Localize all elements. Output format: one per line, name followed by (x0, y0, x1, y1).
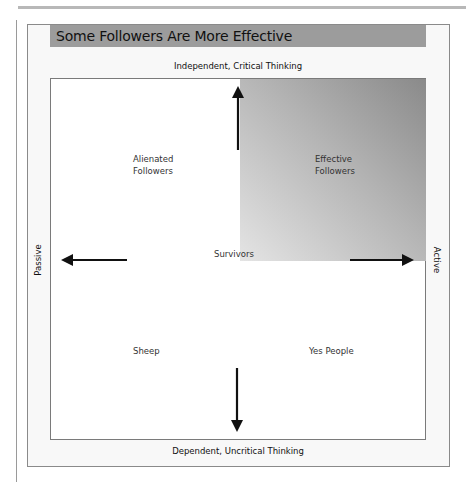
quadrant-bottom-left-line1: Sheep (133, 345, 160, 357)
title-bar: Some Followers Are More Effective (50, 25, 426, 47)
quadrant-top-left-line2: Followers (133, 165, 173, 177)
arrow-up-icon (232, 86, 244, 152)
axis-label-top: Independent, Critical Thinking (50, 61, 426, 71)
arrow-down-icon (231, 368, 243, 432)
quadrant-bottom-right-label: Yes People (309, 345, 354, 357)
quadrant-top-left-label: Alienated Followers (133, 153, 173, 177)
arrow-right-icon (350, 254, 414, 266)
quadrant-bottom-right-line1: Yes People (309, 345, 354, 357)
axis-label-right: Active (432, 247, 442, 273)
diagram-title: Some Followers Are More Effective (56, 28, 292, 44)
quadrant-bottom-left-label: Sheep (133, 345, 160, 357)
quadrant-top-right-label: Effective Followers (315, 153, 355, 177)
quadrant-top-right-line2: Followers (315, 165, 355, 177)
axis-label-left: Passive (33, 244, 43, 275)
arrow-left-icon (61, 254, 127, 266)
top-rule (18, 6, 466, 9)
axis-label-bottom: Dependent, Uncritical Thinking (50, 446, 426, 456)
quadrant-center-label: Survivors (214, 248, 254, 260)
quadrant-center-line1: Survivors (214, 248, 254, 260)
left-margin-rule (16, 20, 17, 482)
quadrant-top-right-line1: Effective (315, 153, 355, 165)
quadrant-top-left-line1: Alienated (133, 153, 173, 165)
